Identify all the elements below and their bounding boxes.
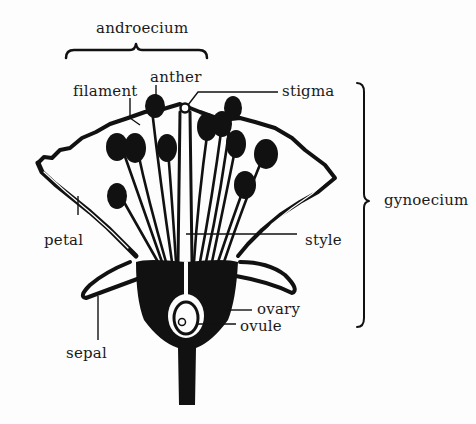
- label-anther: anther: [150, 70, 202, 85]
- label-androecium: androecium: [96, 21, 188, 36]
- label-style: style: [305, 233, 342, 248]
- label-filament: filament: [73, 84, 137, 99]
- label-ovary: ovary: [257, 302, 300, 317]
- androecium-bracket: [66, 44, 207, 58]
- label-stigma: stigma: [282, 84, 335, 99]
- anther: [145, 94, 165, 118]
- sepal-left: [83, 262, 140, 298]
- label-ovule: ovule: [240, 319, 282, 334]
- flower-diagram: androecium filament anther stigma gynoec…: [0, 0, 476, 424]
- gynoecium-bracket: [357, 83, 369, 327]
- style-outline: [178, 112, 180, 262]
- label-sepal: sepal: [66, 346, 107, 361]
- leader-filament: [130, 98, 140, 125]
- label-gynoecium: gynoecium: [384, 193, 469, 208]
- sepal-right: [236, 262, 295, 293]
- label-petal: petal: [44, 233, 83, 248]
